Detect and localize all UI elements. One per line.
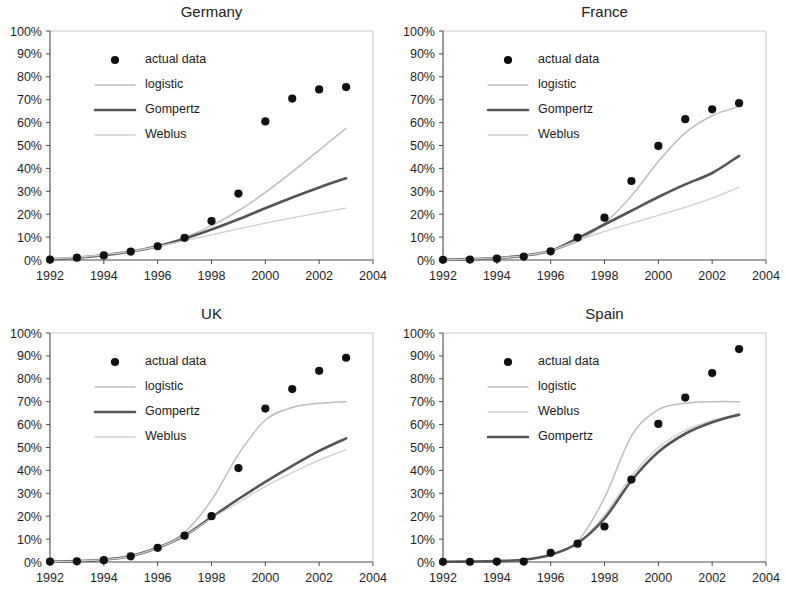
y-tick-label-spain-1: 10% (410, 533, 435, 547)
x-tick-label-spain-3: 1998 (591, 571, 619, 585)
data-point-uk-1994 (100, 556, 108, 564)
y-tick-label-france-0: 0% (417, 254, 435, 268)
y-tick-label-germany-8: 80% (17, 70, 42, 84)
data-point-germany-1994 (100, 251, 108, 259)
x-tick-label-uk-6: 2004 (359, 571, 387, 585)
y-tick-label-uk-10: 100% (10, 327, 42, 341)
data-point-spain-1999 (627, 475, 635, 483)
x-tick-label-spain-2: 1996 (537, 571, 565, 585)
y-tick-label-germany-5: 50% (17, 139, 42, 153)
legend-label-spain-logistic: logistic (538, 379, 576, 393)
x-tick-label-spain-4: 2000 (644, 571, 672, 585)
data-point-uk-1997 (180, 532, 188, 540)
y-tick-label-germany-4: 40% (17, 162, 42, 176)
x-tick-label-spain-1: 1994 (483, 571, 511, 585)
x-tick-label-uk-4: 2000 (251, 571, 279, 585)
chart-svg-uk: UK0%10%20%30%40%50%60%70%80%90%100%19921… (0, 302, 393, 604)
y-tick-label-uk-8: 80% (17, 372, 42, 386)
data-point-germany-1998 (207, 217, 215, 225)
data-point-spain-2002 (708, 369, 716, 377)
x-tick-label-france-3: 1998 (591, 269, 619, 283)
y-tick-label-uk-7: 70% (17, 395, 42, 409)
y-tick-label-france-5: 50% (410, 139, 435, 153)
chart-panel-spain: Spain0%10%20%30%40%50%60%70%80%90%100%19… (393, 302, 786, 604)
legend-label-spain-weblus: Weblus (538, 404, 579, 418)
panel-title-spain: Spain (585, 305, 623, 322)
x-tick-label-spain-0: 1992 (429, 571, 457, 585)
data-point-spain-1995 (520, 557, 528, 565)
y-tick-label-spain-7: 70% (410, 395, 435, 409)
data-point-uk-1998 (207, 512, 215, 520)
y-tick-label-france-8: 80% (410, 70, 435, 84)
x-tick-label-germany-1: 1994 (90, 269, 118, 283)
chart-svg-germany: Germany0%10%20%30%40%50%60%70%80%90%100%… (0, 0, 393, 302)
data-point-uk-1996 (154, 544, 162, 552)
chart-panel-uk: UK0%10%20%30%40%50%60%70%80%90%100%19921… (0, 302, 393, 604)
x-tick-label-spain-6: 2004 (752, 571, 780, 585)
data-point-spain-2003 (735, 345, 743, 353)
panel-title-germany: Germany (181, 3, 243, 20)
x-tick-label-uk-5: 2002 (305, 571, 333, 585)
x-tick-label-france-4: 2000 (644, 269, 672, 283)
series-line-france-logistic (443, 107, 739, 260)
chart-figure: Germany0%10%20%30%40%50%60%70%80%90%100%… (0, 0, 786, 605)
data-point-france-2001 (681, 115, 689, 123)
panel-title-uk: UK (201, 305, 222, 322)
y-tick-label-germany-1: 10% (17, 231, 42, 245)
data-point-germany-2000 (261, 117, 269, 125)
legend-label-spain-gompertz: Gompertz (538, 429, 593, 443)
legend-label-uk-gompertz: Gompertz (145, 404, 200, 418)
legend-label-france-weblus: Weblus (538, 127, 579, 141)
x-tick-label-germany-3: 1998 (198, 269, 226, 283)
legend-label-uk-actual: actual data (145, 354, 206, 368)
y-tick-label-france-1: 10% (410, 231, 435, 245)
y-tick-label-france-10: 100% (403, 25, 435, 39)
y-tick-label-germany-6: 60% (17, 116, 42, 130)
y-tick-label-germany-10: 100% (10, 25, 42, 39)
data-point-france-1999 (627, 177, 635, 185)
x-tick-label-germany-0: 1992 (36, 269, 64, 283)
legend-label-france-gompertz: Gompertz (538, 102, 593, 116)
data-point-spain-1992 (439, 558, 447, 566)
chart-svg-france: France0%10%20%30%40%50%60%70%80%90%100%1… (393, 0, 786, 302)
legend-marker-spain-actual (504, 358, 512, 366)
legend-label-germany-actual: actual data (145, 52, 206, 66)
series-line-france-weblus (443, 187, 739, 259)
x-tick-label-germany-6: 2004 (359, 269, 387, 283)
legend-marker-germany-actual (111, 56, 119, 64)
y-tick-label-france-7: 70% (410, 93, 435, 107)
data-point-uk-1999 (234, 464, 242, 472)
x-tick-label-france-1: 1994 (483, 269, 511, 283)
data-point-germany-1999 (234, 189, 242, 197)
data-point-germany-1995 (127, 247, 135, 255)
data-point-france-2002 (708, 105, 716, 113)
y-tick-label-uk-1: 10% (17, 533, 42, 547)
data-point-spain-1998 (600, 522, 608, 530)
data-point-spain-2001 (681, 393, 689, 401)
x-tick-label-uk-0: 1992 (36, 571, 64, 585)
data-point-france-1998 (600, 214, 608, 222)
data-point-germany-2001 (288, 94, 296, 102)
y-tick-label-france-6: 60% (410, 116, 435, 130)
y-tick-label-uk-0: 0% (24, 556, 42, 570)
data-point-france-1995 (520, 252, 528, 260)
data-point-spain-1994 (493, 557, 501, 565)
data-point-uk-2000 (261, 404, 269, 412)
x-tick-label-france-2: 1996 (537, 269, 565, 283)
data-point-germany-1993 (73, 254, 81, 262)
data-point-uk-1992 (46, 557, 54, 565)
x-tick-label-uk-1: 1994 (90, 571, 118, 585)
data-point-germany-2003 (342, 83, 350, 91)
legend-label-france-actual: actual data (538, 52, 599, 66)
series-line-uk-gompertz (50, 438, 346, 561)
y-tick-label-uk-3: 30% (17, 487, 42, 501)
x-tick-label-uk-2: 1996 (144, 571, 172, 585)
legend-label-france-logistic: logistic (538, 77, 576, 91)
x-tick-label-uk-3: 1998 (198, 571, 226, 585)
y-tick-label-france-9: 90% (410, 47, 435, 61)
y-tick-label-spain-3: 30% (410, 487, 435, 501)
x-tick-label-spain-5: 2002 (698, 571, 726, 585)
y-tick-label-germany-0: 0% (24, 254, 42, 268)
x-tick-label-france-5: 2002 (698, 269, 726, 283)
legend-label-uk-weblus: Weblus (145, 429, 186, 443)
